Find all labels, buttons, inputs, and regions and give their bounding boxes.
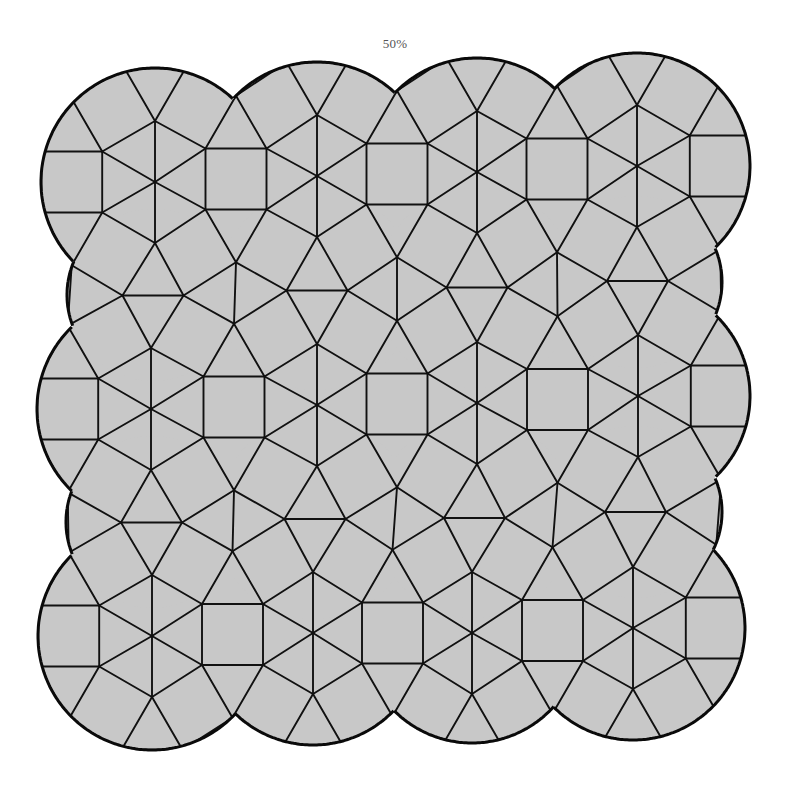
tiling-fill: [37, 53, 750, 750]
square-triangle-tiling: [0, 0, 790, 789]
tile-edge: [557, 252, 558, 316]
